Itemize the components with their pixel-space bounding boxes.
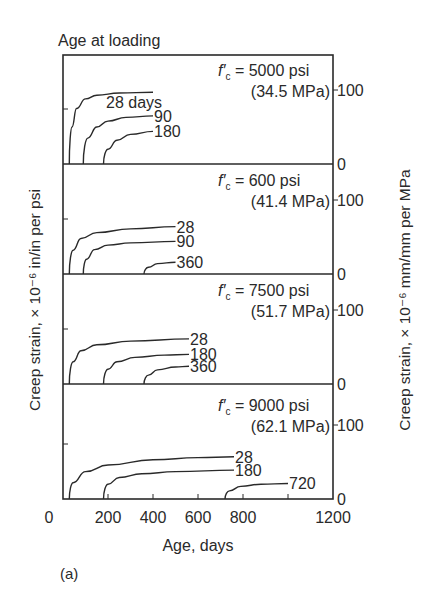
right-tick-label: 100 xyxy=(337,192,364,209)
strength-label: f′c = 9000 psi xyxy=(218,397,309,417)
x-tick-label: 0 xyxy=(45,509,54,526)
creep-curve-28 xyxy=(69,227,175,274)
strength-label: f′c = 5000 psi xyxy=(218,62,309,82)
curve-label: 90 xyxy=(154,108,172,125)
panel-1: 1000f′c = 5000 psi(34.5 MPa)28 days90180 xyxy=(63,62,364,173)
creep-curve-180 xyxy=(104,131,154,164)
curve-label: 90 xyxy=(177,233,195,250)
creep-curve-180 xyxy=(104,354,190,384)
right-tick-label: 0 xyxy=(337,156,346,173)
curve-label: 28 xyxy=(190,331,208,348)
strength-mpa-label: (34.5 MPa) xyxy=(251,83,330,100)
creep-curve-28 xyxy=(69,457,234,499)
curve-label: 180 xyxy=(154,123,181,140)
strength-mpa-label: (41.4 MPa) xyxy=(251,193,330,210)
right-tick-label: 0 xyxy=(337,266,346,283)
x-tick-label: 800 xyxy=(230,509,257,526)
strength-label: f′c = 600 psi xyxy=(218,172,300,192)
strength-label: f′c = 7500 psi xyxy=(218,282,309,302)
x-axis-label: Age, days xyxy=(162,537,233,554)
creep-curve-180 xyxy=(104,470,235,499)
right-tick-label: 100 xyxy=(337,302,364,319)
creep-curve-28 xyxy=(69,339,189,384)
curve-label: 360 xyxy=(190,358,217,375)
right-tick-label: 100 xyxy=(337,82,364,99)
creep-strain-chart: Age at loading 1000f′c = 5000 psi(34.5 M… xyxy=(0,0,435,590)
chart-title: Age at loading xyxy=(58,32,160,49)
creep-curve-720 xyxy=(225,484,288,500)
x-tick-label: 600 xyxy=(185,509,212,526)
panel-2: 1000f′c = 600 psi(41.4 MPa)2890360 xyxy=(63,172,364,283)
panels: 1000f′c = 5000 psi(34.5 MPa)28 days90180… xyxy=(63,62,364,508)
curve-label: 180 xyxy=(235,462,262,479)
curve-label: 360 xyxy=(177,254,204,271)
y-axis-label-right: Creep strain, × 10⁻⁶ mm/mm per MPa xyxy=(396,169,413,431)
creep-curve-90 xyxy=(83,241,175,274)
right-tick-label: 0 xyxy=(337,376,346,393)
panel-3: 1000f′c = 7500 psi(51.7 MPa)28180360 xyxy=(63,282,364,393)
right-tick-label: 0 xyxy=(337,491,346,508)
y-axis-label-left: Creep strain, × 10⁻⁶ in/in per psi xyxy=(26,189,43,411)
strength-mpa-label: (62.1 MPa) xyxy=(251,418,330,435)
curve-label: 720 xyxy=(289,475,316,492)
panel-4: 1000f′c = 9000 psi(62.1 MPa)28180720 xyxy=(63,397,364,508)
creep-curve-360 xyxy=(144,366,189,384)
figure-label: (a) xyxy=(60,565,78,582)
x-tick-label: 400 xyxy=(140,509,167,526)
creep-curve-360 xyxy=(144,262,176,274)
strength-mpa-label: (51.7 MPa) xyxy=(251,303,330,320)
x-tick-label: 200 xyxy=(95,509,122,526)
x-tick-label: 1200 xyxy=(315,509,351,526)
right-tick-label: 100 xyxy=(337,417,364,434)
